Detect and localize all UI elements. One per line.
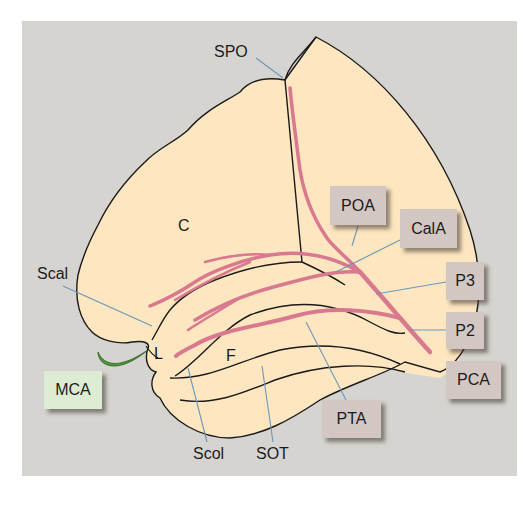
cala-label-box: CalA bbox=[400, 209, 457, 248]
cuneus-label: C bbox=[178, 218, 190, 234]
fusiform-gyrus-label: F bbox=[226, 348, 236, 364]
p2-label-box: P2 bbox=[446, 312, 484, 349]
pca-label-box: PCA bbox=[446, 361, 501, 399]
brain-illustration bbox=[0, 0, 532, 507]
mca-label-box: MCA bbox=[44, 371, 102, 409]
spo-label: SPO bbox=[214, 44, 248, 60]
lingual-gyrus-label: L bbox=[154, 346, 163, 362]
diagram-stage: C L F SPO Scal Scol SOT POA CalA P3 P2 P… bbox=[0, 0, 532, 507]
poa-label-box: POA bbox=[330, 186, 386, 225]
sot-label: SOT bbox=[256, 446, 289, 462]
pta-label-box: PTA bbox=[322, 400, 381, 438]
scol-label: Scol bbox=[193, 446, 224, 462]
scal-label: Scal bbox=[37, 266, 68, 282]
p3-label-box: P3 bbox=[446, 262, 484, 300]
mca-vessel bbox=[98, 350, 148, 366]
